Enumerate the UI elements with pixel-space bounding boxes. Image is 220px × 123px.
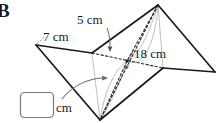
dimension-label-left-edge: 7 cm	[43, 30, 69, 43]
problem-letter: B	[0, 1, 9, 20]
figure-page: B 5 cm 7 cm 18 cm o cm	[0, 0, 220, 123]
answer-unit-label: cm	[56, 101, 72, 114]
dimension-label-diagonal: 18 cm	[134, 47, 166, 60]
dimension-label-top-edge: 5 cm	[77, 13, 103, 26]
center-point-label: o	[124, 62, 129, 71]
answer-input-box[interactable]	[21, 93, 54, 118]
answer-callout-arrow	[62, 76, 108, 99]
leader-5cm	[107, 28, 112, 52]
geometry-figure	[0, 0, 220, 123]
